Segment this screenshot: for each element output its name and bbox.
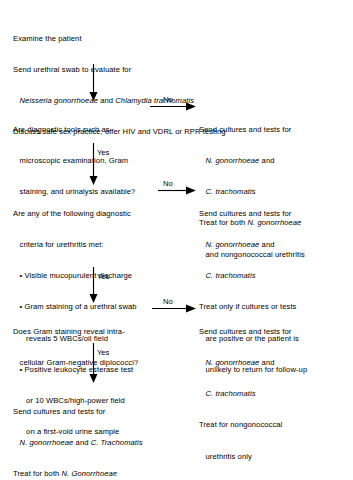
decision-1-line-2: microscopic examination, Gram xyxy=(13,156,135,166)
outcome-1-line-1: Send cultures and tests for xyxy=(199,125,305,135)
edge-label-decision-2-no: No xyxy=(163,179,173,188)
outcome-2-line-2: N. gonorrhoeae and xyxy=(199,240,307,250)
organism-c-trachomatis: C. trachomatis xyxy=(206,271,256,280)
outcome-3-line-3: C. trachomatis xyxy=(199,389,291,399)
start-line-1: Examine the patient xyxy=(13,34,226,44)
organism-c-trachomatis: C. Trachomatis xyxy=(91,438,143,447)
edge-label-decision-3-yes: Yes xyxy=(97,348,109,357)
outcome-2-line-1: Send cultures and tests for xyxy=(199,209,307,219)
arrow-decision-3-no xyxy=(152,305,196,313)
final-line-1: Send cultures and tests for xyxy=(13,407,143,417)
organism-n-gonorrhoeae: N. gonorrhoeae xyxy=(20,438,74,447)
node-final-treatment: Send cultures and tests for N. gonorrhoe… xyxy=(13,386,143,480)
organism-n-gonorrhoeae: N. gonorrhoeae xyxy=(206,156,260,165)
organism-c-trachomatis: C. trachomatis xyxy=(206,389,256,398)
final-line-2: N. gonorrhoeae and C. Trachomatis xyxy=(13,438,143,448)
node-outcome-no-diplococci: Send cultures and tests for N. gonorrhoe… xyxy=(199,306,291,480)
decision-2-line-1: Are any of the following diagnostic xyxy=(13,209,137,219)
edge-label-decision-1-yes: Yes xyxy=(97,148,109,157)
decision-2-line-2: criteria for urethritis met: xyxy=(13,240,137,250)
decision-3-line-2: cellular Gram-negative diplococci? xyxy=(13,358,138,368)
edge-label-decision-3-no: No xyxy=(163,297,173,306)
outcome-3-line-2: N. gonorrhoeae and xyxy=(199,358,291,368)
edge-label-decision-1-no: No xyxy=(163,95,173,104)
organism-n-gonorrhoeae: N. gonorrhoeae xyxy=(206,240,260,249)
outcome-3-line-5: urethritis only xyxy=(199,452,291,462)
organism-n-gonorrhoeae-treat: N. Gonorrhoeae xyxy=(62,469,118,478)
edge-label-decision-2-yes: Yes xyxy=(97,272,109,281)
start-line-2: Send urethral swab to evaluate for xyxy=(13,65,226,75)
outcome-3-line-4: Treat for nongonococcal xyxy=(199,420,291,430)
outcome-3-line-1: Send cultures and tests for xyxy=(199,327,291,337)
node-decision-gram-stain-diplococci: Does Gram staining reveal intra- cellula… xyxy=(13,306,138,389)
organism-n-gonorrhoeae: N. gonorrhoeae xyxy=(206,358,260,367)
criterion-bullet-1: • Visible mucopurulent discharge xyxy=(13,271,137,281)
outcome-1-line-2: N. gonorrhoeae and xyxy=(199,156,305,166)
decision-3-line-1: Does Gram staining reveal intra- xyxy=(13,327,138,337)
outcome-2-line-3: C. trachomatis xyxy=(199,271,307,281)
decision-1-line-1: Are diagnostic tools such as xyxy=(13,125,135,135)
final-line-3: Treat for both N. Gonorrhoeae xyxy=(13,469,143,479)
